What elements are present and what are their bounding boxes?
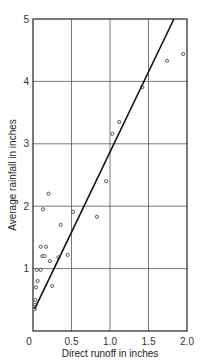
y-tick-label: 3: [23, 138, 29, 149]
data-point: [71, 210, 74, 213]
data-point: [118, 120, 121, 123]
scatter-chart: 12345 00.51.01.52.0 Direct runoff in inc…: [0, 0, 201, 363]
data-point: [111, 132, 114, 135]
x-tick-label: 2.0: [180, 336, 194, 347]
data-point: [66, 253, 69, 256]
y-tick-label: 5: [23, 14, 29, 25]
data-point: [36, 279, 39, 282]
x-tick-label: 0: [26, 336, 32, 347]
data-point: [95, 215, 98, 218]
data-point: [105, 180, 108, 183]
x-tick-labels: 00.51.01.52.0: [26, 336, 194, 347]
data-point: [48, 260, 51, 263]
y-tick-labels: 12345: [23, 14, 29, 275]
y-tick-label: 2: [23, 201, 29, 212]
x-axis-label: Direct runoff in inches: [62, 348, 159, 359]
data-point: [51, 284, 54, 287]
x-tick-label: 1.5: [142, 336, 156, 347]
grid-lines: [33, 19, 187, 331]
x-tick-label: 0.5: [65, 336, 79, 347]
data-point: [39, 245, 42, 248]
data-point: [182, 52, 185, 55]
data-point: [34, 286, 37, 289]
data-point: [34, 298, 37, 301]
data-point: [165, 59, 168, 62]
data-point: [59, 223, 62, 226]
x-tick-label: 1.0: [103, 336, 117, 347]
data-point: [44, 245, 47, 248]
data-points: [33, 52, 185, 310]
data-point: [39, 268, 42, 271]
y-axis-label: Average rainfall in inches: [7, 119, 18, 231]
y-tick-label: 1: [23, 263, 29, 274]
data-point: [35, 268, 38, 271]
y-tick-label: 4: [23, 76, 29, 87]
data-point: [41, 208, 44, 211]
data-point: [47, 192, 50, 195]
data-point: [43, 255, 46, 258]
regression-line: [35, 19, 174, 309]
